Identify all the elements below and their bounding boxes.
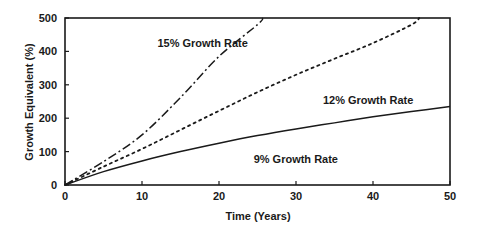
series-line-9pct <box>65 107 450 185</box>
x-tick-label: 10 <box>136 190 148 202</box>
y-tick-label: 500 <box>39 12 57 24</box>
curve-label: 15% Growth Rate <box>157 37 247 49</box>
y-axis-title: Growth Equivalent (%) <box>23 43 35 161</box>
x-tick-label: 0 <box>62 190 68 202</box>
y-tick-label: 0 <box>51 179 57 191</box>
x-tick-label: 40 <box>367 190 379 202</box>
x-tick-label: 30 <box>290 190 302 202</box>
y-tick-label: 400 <box>39 45 57 57</box>
y-tick-label: 100 <box>39 146 57 158</box>
x-axis-ticks: 01020304050 <box>62 181 456 202</box>
curve-label: 12% Growth Rate <box>323 94 413 106</box>
x-tick-label: 50 <box>444 190 456 202</box>
curve-label: 9% Growth Rate <box>254 153 338 165</box>
curve-annotations: 15% Growth Rate12% Growth Rate9% Growth … <box>157 37 413 165</box>
x-axis-title: Time (Years) <box>225 210 291 222</box>
growth-chart: 01020304050 0100200300400500 15% Growth … <box>0 0 480 235</box>
x-tick-label: 20 <box>213 190 225 202</box>
y-tick-label: 200 <box>39 112 57 124</box>
y-tick-label: 300 <box>39 79 57 91</box>
